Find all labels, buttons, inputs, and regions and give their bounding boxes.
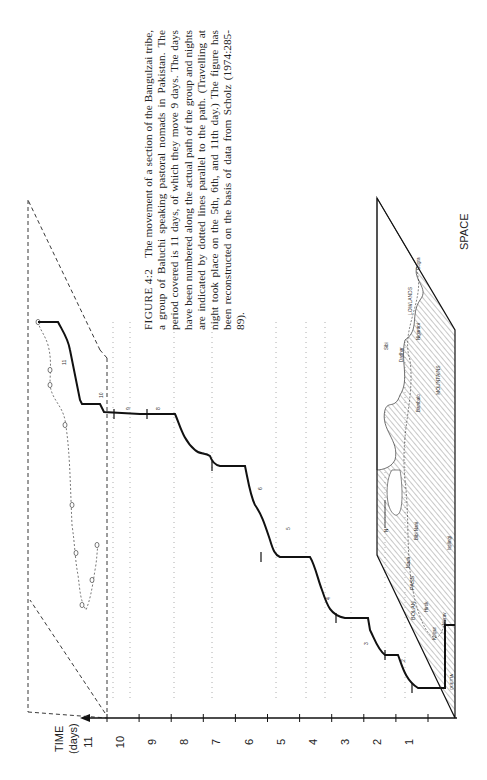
- mountains-label: MOUNTAINS: [435, 365, 441, 395]
- place-mach: Mach: [406, 556, 411, 568]
- time-axis-tick-label: 6: [243, 739, 255, 745]
- day-labels: 234567891011: [61, 360, 406, 662]
- place-bibi-nani: Bibi Nani: [414, 522, 419, 540]
- day-label: 5: [285, 527, 291, 530]
- space-axis-label: SPACE: [458, 214, 470, 250]
- day-label: 4: [325, 597, 331, 600]
- place-isplingi: Isplingi: [447, 536, 452, 550]
- place-kolpur: Kolpur: [432, 626, 437, 640]
- day-label: 2: [400, 659, 406, 662]
- place-sibi: Sibi: [384, 342, 389, 350]
- time-axis-tick-label: 2: [371, 739, 383, 745]
- place-bambalo: Bambalo: [416, 394, 421, 412]
- time-axis-tick-label: 9: [146, 739, 158, 745]
- time-axis-unit-label: (days): [67, 723, 79, 754]
- time-axis-tick-label: 11: [82, 736, 94, 747]
- place-hirok: Hirok: [424, 601, 429, 612]
- lowlands-label: LOWLANDS: [407, 286, 413, 315]
- projected-stop-marker: [63, 422, 67, 427]
- bibi-nani-valley: [387, 470, 402, 515]
- upper-plane-outline: [28, 200, 107, 718]
- time-space-diagram: 1234567891011 TIME (days) LOWLANDS MOUNT…: [0, 0, 487, 780]
- time-axis-tick-label: 5: [275, 739, 287, 745]
- day-label: 9: [125, 407, 131, 410]
- day-label: 3: [363, 642, 369, 645]
- projected-stop-marker: [95, 542, 99, 547]
- day-label: 7: [202, 452, 208, 455]
- svg-text:N: N: [384, 529, 389, 532]
- time-axis-tick-label: 7: [210, 739, 222, 745]
- day-label: 10: [98, 392, 104, 398]
- projected-stop-marker: [48, 382, 52, 387]
- projected-stop-marker: [80, 602, 84, 607]
- day-label: 11: [61, 360, 67, 365]
- place-dadhar: Dadhar: [399, 347, 404, 362]
- time-axis-label: TIME: [53, 726, 65, 752]
- projected-stop-marker: [48, 367, 52, 372]
- time-axis-tick-label: 8: [178, 739, 190, 745]
- projected-stop-marker: [70, 502, 74, 507]
- time-axis-arrow-icon: [80, 714, 90, 722]
- time-axis: 1234567891011 TIME (days): [53, 714, 457, 754]
- place-pass: PASS: [409, 575, 415, 590]
- map-plane: LOWLANDS MOUNTAINS Gogra Nigarani Sibi D…: [377, 198, 470, 718]
- projected-route-stops: [36, 319, 99, 607]
- time-axis-tick-label: 3: [339, 739, 351, 745]
- time-axis-tick-label: 4: [307, 739, 319, 745]
- time-axis-tick-label: 1: [403, 739, 415, 745]
- projected-stop-marker: [90, 577, 94, 582]
- time-axis-tick-label: 10: [114, 736, 126, 748]
- place-bolan: BOLAN: [410, 601, 416, 620]
- day-label: 8: [155, 407, 161, 410]
- place-gogra: Gogra: [416, 257, 421, 270]
- projected-route: [38, 322, 98, 610]
- place-nigarani: Nigarani: [416, 323, 421, 340]
- projected-stop-marker: [74, 550, 78, 555]
- place-quetta: QUETTA: [449, 674, 454, 690]
- day-label: 6: [257, 487, 263, 490]
